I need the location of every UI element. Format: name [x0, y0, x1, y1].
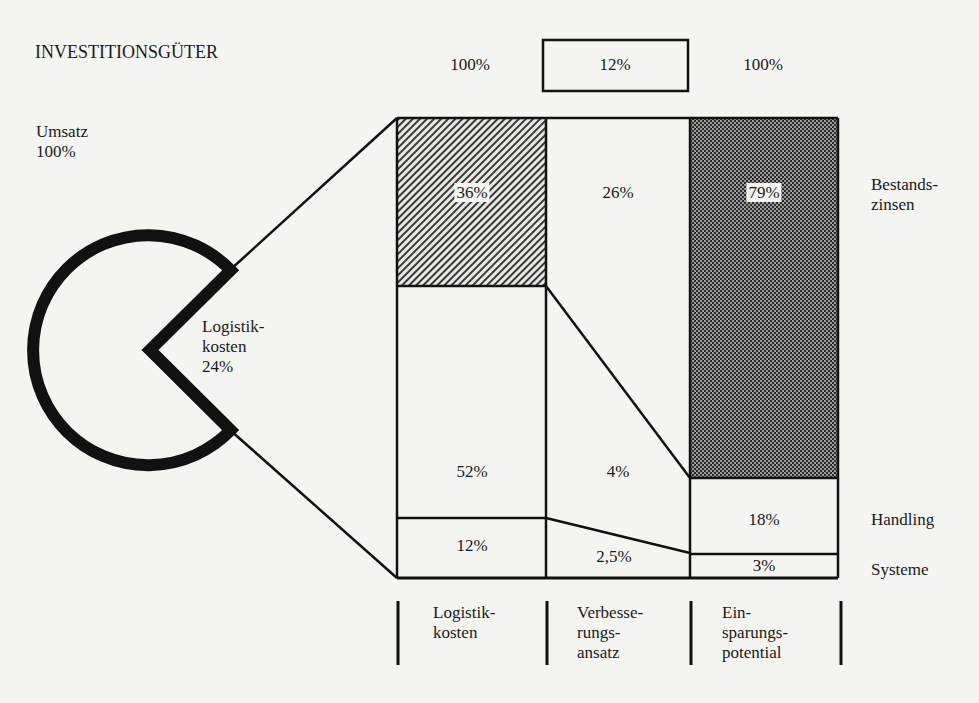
chart-title: INVESTITIONSGÜTER — [35, 42, 218, 62]
value-logistik-systeme: 12% — [456, 536, 487, 556]
pie-slice-value: 24% — [202, 357, 233, 377]
value-logistik-handling: 52% — [456, 462, 487, 482]
diagram-graphics — [0, 0, 979, 703]
value-verbesserung-handling: 4% — [607, 462, 630, 482]
value-einsparung-bestandszinsen: 79% — [746, 183, 781, 202]
row-label-bestandszinsen-line2: zinsen — [871, 195, 914, 215]
segment-einsparung-bestandszinsen — [690, 118, 838, 478]
value-verbesserung-bestandszinsen: 26% — [602, 183, 633, 203]
category-verbesserung-line2: rungs- — [577, 623, 620, 643]
logistik-total: 100% — [450, 55, 490, 75]
pie-slice-label-line1: Logistik- — [202, 317, 264, 337]
verbesserung-total: 12% — [599, 55, 630, 75]
category-logistik-line1: Logistik- — [433, 603, 495, 623]
value-einsparung-handling: 18% — [748, 510, 779, 530]
segment-logistik-handling — [397, 286, 546, 518]
category-verbesserung-line1: Verbesse- — [577, 603, 643, 623]
connector-bottom — [230, 430, 397, 578]
category-einsparung-line2: sparungs- — [722, 623, 788, 643]
value-logistik-bestandszinsen: 36% — [454, 183, 489, 202]
category-verbesserung-line3: ansatz — [577, 643, 619, 663]
row-label-systeme: Systeme — [871, 560, 929, 580]
row-label-bestandszinsen-line1: Bestands- — [871, 175, 938, 195]
pie-slice-label-line2: kosten — [202, 337, 246, 357]
pie-total-label: Umsatz — [36, 122, 88, 142]
connector-top — [230, 118, 397, 270]
row-label-handling: Handling — [871, 510, 934, 530]
value-verbesserung-systeme: 2,5% — [596, 547, 631, 567]
pie-total-value: 100% — [36, 142, 76, 162]
category-einsparung-line1: Ein- — [722, 603, 751, 623]
value-einsparung-systeme: 3% — [753, 557, 776, 575]
einsparung-total: 100% — [743, 55, 783, 75]
category-logistik-line2: kosten — [433, 623, 477, 643]
category-einsparung-line3: potential — [722, 643, 781, 663]
